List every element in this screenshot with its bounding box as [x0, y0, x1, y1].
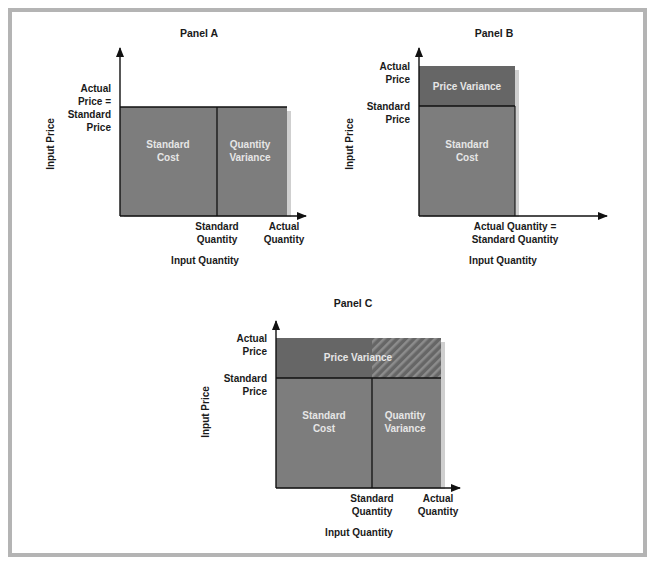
label-text: Cost — [313, 423, 336, 434]
label-text: Quantity — [352, 506, 393, 517]
label-text: Actual — [80, 83, 111, 94]
label-text: Quantity — [197, 234, 238, 245]
label-text: Standard — [68, 109, 111, 120]
label-text: Price — [243, 346, 268, 357]
label-text: Variance — [384, 423, 426, 434]
panel-a: Panel A Standard Cost Quantity Variance … — [45, 27, 306, 266]
label-text: Price — [87, 122, 112, 133]
panel-b-title: Panel B — [475, 27, 514, 39]
label-text: Quantity — [230, 139, 271, 150]
label-text: Quantity — [264, 234, 305, 245]
variance-diagrams: Panel A Standard Cost Quantity Variance … — [0, 0, 653, 562]
panel-a-title: Panel A — [180, 27, 219, 39]
y-axis-label: Input Price — [344, 118, 355, 170]
label-text: Standard — [302, 410, 345, 421]
label-text: Standard — [350, 493, 393, 504]
label-text: Price = — [78, 96, 111, 107]
label-text: Standard — [224, 373, 267, 384]
label-text: Variance — [229, 152, 271, 163]
label-text: Price Variance — [433, 81, 502, 92]
label-text: Actual — [269, 221, 300, 232]
label-text: Standard — [195, 221, 238, 232]
label-text: Actual — [423, 493, 454, 504]
y-axis-label: Input Price — [200, 386, 211, 438]
x-axis-label: Input Quantity — [171, 255, 239, 266]
label-text: Price Variance — [324, 352, 393, 363]
panel-b: Panel B Price Variance Standard Cost Act… — [344, 27, 607, 266]
label-text: Cost — [456, 152, 479, 163]
x-axis-label: Input Quantity — [325, 527, 393, 538]
x-axis-label: Input Quantity — [469, 255, 537, 266]
label-text: Standard — [445, 139, 488, 150]
label-text: Standard — [146, 139, 189, 150]
label-text: Price — [386, 114, 411, 125]
panel-c-title: Panel C — [334, 297, 373, 309]
label-text: Actual — [379, 61, 410, 72]
y-axis-label: Input Price — [45, 118, 56, 170]
panel-c: Panel C Price Variance Standard Cost Qua… — [200, 297, 460, 538]
label-text: Cost — [157, 152, 180, 163]
label-text: Actual — [236, 333, 267, 344]
label-text: Quantity — [385, 410, 426, 421]
label-text: Price — [386, 74, 411, 85]
label-text: Price — [243, 386, 268, 397]
label-text: Actual Quantity = — [474, 221, 557, 232]
label-text: Standard Quantity — [472, 234, 559, 245]
label-text: Quantity — [418, 506, 459, 517]
label-text: Standard — [367, 101, 410, 112]
